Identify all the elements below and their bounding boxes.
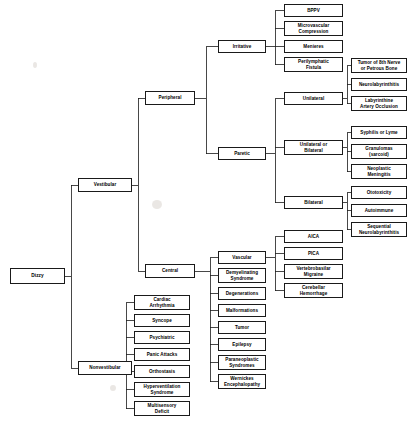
node-sequential-neurolabyrinthitis[interactable]: Sequential Neurolabyrinthitis bbox=[351, 222, 407, 237]
node-multisensory-deficit[interactable]: Multisensory Deficit bbox=[134, 401, 190, 416]
node-paretic[interactable]: Paretic bbox=[218, 147, 266, 160]
node-autoimmune[interactable]: Autoimmune bbox=[351, 204, 407, 217]
node-cerebellar-hemorrhage[interactable]: Cerebellar Hemorrhage bbox=[284, 283, 343, 298]
node-peripheral[interactable]: Peripheral bbox=[145, 91, 195, 105]
node-microvascular-compression[interactable]: Microvascular Compression bbox=[284, 21, 343, 36]
node-labyrinthine-artery-occlusion[interactable]: Labyrinthine Artery Occlusion bbox=[351, 96, 407, 111]
node-malformations[interactable]: Malformations bbox=[218, 304, 266, 317]
connector-layer bbox=[0, 0, 411, 441]
node-syphilis-or-lyme[interactable]: Syphilis or Lyme bbox=[351, 126, 407, 139]
node-tumor[interactable]: Tumor bbox=[218, 321, 266, 334]
node-wernickes-encephalopathy[interactable]: Wernickes Encephalopathy bbox=[218, 374, 266, 389]
node-aica[interactable]: AICA bbox=[284, 230, 343, 243]
node-vascular[interactable]: Vascular bbox=[218, 251, 266, 264]
node-neurolabyrinthitis[interactable]: Neurolabyrinthitis bbox=[351, 78, 407, 91]
node-bilateral[interactable]: Bilateral bbox=[284, 196, 343, 209]
node-granulomas-sarcoid[interactable]: Granulomas (sarcoid) bbox=[351, 144, 407, 159]
node-menieres[interactable]: Menieres bbox=[284, 40, 343, 53]
node-unilateral[interactable]: Unilateral bbox=[284, 92, 343, 105]
node-psychiatric[interactable]: Psychiatric bbox=[134, 331, 190, 344]
node-neoplastic-meningitis[interactable]: Neoplastic Meningitis bbox=[351, 164, 407, 179]
node-perilymphatic-fistula[interactable]: Perilymphatic Fistula bbox=[284, 57, 343, 72]
node-pica[interactable]: PICA bbox=[284, 247, 343, 260]
node-bppv[interactable]: BPPV bbox=[284, 4, 343, 17]
node-root[interactable]: Dizzy bbox=[10, 268, 65, 284]
node-hyperventilation-syndrome[interactable]: Hyperventilation Syndrome bbox=[134, 382, 190, 397]
node-ototoxicity[interactable]: Ototoxicity bbox=[351, 186, 407, 199]
node-panic-attacks[interactable]: Panic Attacks bbox=[134, 348, 190, 361]
node-central[interactable]: Central bbox=[145, 264, 195, 278]
node-paraneoplastic-syndromes[interactable]: Paraneoplastic Syndromes bbox=[218, 355, 266, 370]
node-demyelinating-syndrome[interactable]: Demyelinating Syndrome bbox=[218, 268, 266, 283]
node-cardiac-arrhythmia[interactable]: Cardiac Arrhythmia bbox=[134, 295, 190, 310]
node-orthostasis[interactable]: Orthostasis bbox=[134, 365, 190, 378]
node-syncope[interactable]: Syncope bbox=[134, 314, 190, 327]
node-irritative[interactable]: Irritative bbox=[218, 40, 266, 53]
node-nonvestibular[interactable]: Nonvestibular bbox=[78, 361, 132, 375]
dizzy-diagnosis-flowchart: DizzyVestibularNonvestibularPeripheralCe… bbox=[0, 0, 411, 441]
node-degenerations[interactable]: Degenerations bbox=[218, 287, 266, 300]
node-tumor-8th-nerve[interactable]: Tumor of 8th Nerve or Petrous Bone bbox=[351, 58, 407, 73]
node-epilepsy[interactable]: Epilepsy bbox=[218, 338, 266, 351]
node-vertebrobasilar-migraine[interactable]: Vertebrobasilar Migraine bbox=[284, 264, 343, 279]
node-vestibular[interactable]: Vestibular bbox=[78, 178, 132, 192]
node-unilateral-or-bilateral[interactable]: Unilateral or Bilateral bbox=[284, 140, 343, 155]
